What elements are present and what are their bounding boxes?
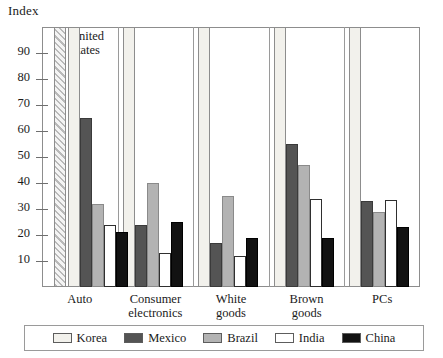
y-axis-tick-label: 50 — [18, 148, 31, 163]
bar-china — [116, 232, 128, 287]
x-axis-label-line: electronics — [118, 306, 194, 320]
x-axis-labels: AutoConsumerelectronicsWhitegoodsBrowngo… — [42, 292, 420, 326]
legend-item-korea: Korea — [53, 331, 108, 346]
x-axis-label: Consumerelectronics — [118, 292, 194, 320]
y-axis-title: Index — [8, 3, 39, 19]
bar-mexico — [80, 118, 92, 287]
x-axis-label-line: Brown — [269, 292, 345, 306]
bar-group — [118, 27, 194, 287]
y-axis-tick-label: 90 — [18, 44, 31, 59]
bar-china — [171, 222, 183, 287]
bar-mexico — [361, 201, 373, 287]
bar-group: UnitedStates — [42, 27, 118, 287]
y-axis-tick-label: 30 — [18, 200, 31, 215]
y-axis-tick-label: 20 — [18, 226, 31, 241]
bar-india — [104, 225, 116, 287]
bar-mexico — [135, 225, 147, 287]
bar-india — [385, 200, 397, 287]
x-axis-label-line: Consumer — [118, 292, 194, 306]
legend-label-china: China — [366, 331, 396, 346]
legend-swatch-mexico — [124, 333, 143, 343]
bar-mexico — [210, 243, 222, 287]
bar-brazil — [298, 165, 310, 287]
y-axis-tick-label: 40 — [18, 174, 31, 189]
bar-china — [246, 238, 258, 287]
chart-legend: KoreaMexicoBrazilIndiaChina — [24, 325, 424, 351]
bar-india — [310, 199, 322, 287]
legend-swatch-china — [342, 333, 361, 343]
bar-group — [193, 27, 269, 287]
legend-label-india: India — [299, 331, 325, 346]
bar-korea — [198, 27, 210, 287]
bar-brazil — [373, 212, 385, 287]
legend-label-brazil: Brazil — [227, 331, 258, 346]
bar-brazil — [147, 183, 159, 287]
bar-korea — [68, 27, 80, 287]
bar-korea — [274, 27, 286, 287]
bar-korea — [349, 27, 361, 287]
x-axis-label: Auto — [42, 292, 118, 306]
y-axis-tick-label: 10 — [18, 252, 31, 267]
bar-china — [322, 238, 334, 287]
legend-item-china: China — [342, 331, 396, 346]
x-axis-label-line: goods — [193, 306, 269, 320]
bar-brazil — [222, 196, 234, 287]
reference-bar-united-states — [54, 27, 66, 287]
bar-india — [159, 253, 171, 287]
legend-item-brazil: Brazil — [203, 331, 258, 346]
bar-mexico — [286, 144, 298, 287]
bar-india — [234, 256, 246, 287]
x-axis-label: PCs — [344, 292, 420, 306]
x-axis-label-line: Auto — [42, 292, 118, 306]
x-axis-label-line: White — [193, 292, 269, 306]
legend-label-korea: Korea — [77, 331, 108, 346]
legend-swatch-korea — [53, 333, 72, 343]
legend-item-india: India — [275, 331, 325, 346]
y-axis-tick-label: 70 — [18, 96, 31, 111]
legend-item-mexico: Mexico — [124, 331, 186, 346]
group-separator — [269, 27, 270, 287]
bar-china — [397, 227, 409, 287]
bars-layer: UnitedStates — [42, 27, 420, 287]
bar-group — [269, 27, 345, 287]
legend-label-mexico: Mexico — [148, 331, 186, 346]
y-axis-tick-label: 80 — [18, 70, 31, 85]
x-axis-label: Whitegoods — [193, 292, 269, 320]
bar-group — [344, 27, 420, 287]
bar-brazil — [92, 204, 104, 287]
legend-swatch-india — [275, 333, 294, 343]
legend-swatch-brazil — [203, 333, 222, 343]
group-separator — [193, 27, 194, 287]
bar-chart: Index 908070605040302010 UnitedStates Au… — [0, 0, 443, 358]
x-axis-label-line: goods — [269, 306, 345, 320]
y-axis-tick-label: 60 — [18, 122, 31, 137]
group-separator — [344, 27, 345, 287]
x-axis-label: Browngoods — [269, 292, 345, 320]
x-axis-label-line: PCs — [344, 292, 420, 306]
